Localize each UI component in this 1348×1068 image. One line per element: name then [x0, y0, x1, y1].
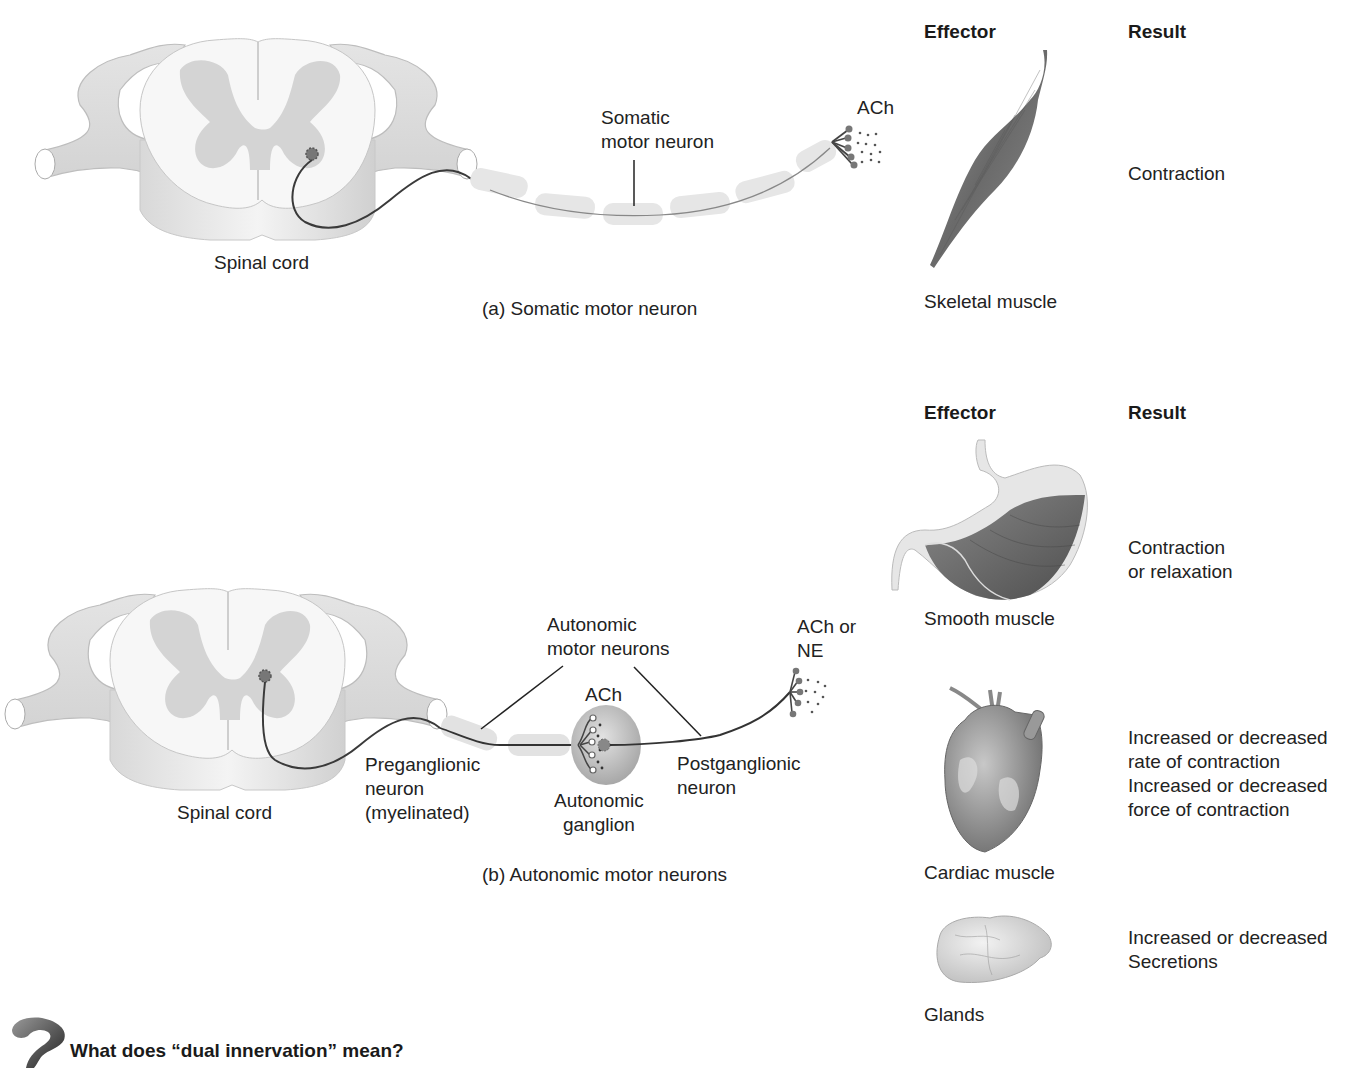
question-mark-icon: [8, 1016, 68, 1068]
glands-result: Increased or decreasedSecretions: [1128, 926, 1328, 974]
question-text: What does “dual innervation” mean?: [70, 1040, 404, 1062]
glands-label: Glands: [924, 1003, 984, 1027]
review-question: What does “dual innervation” mean?: [8, 1018, 404, 1068]
